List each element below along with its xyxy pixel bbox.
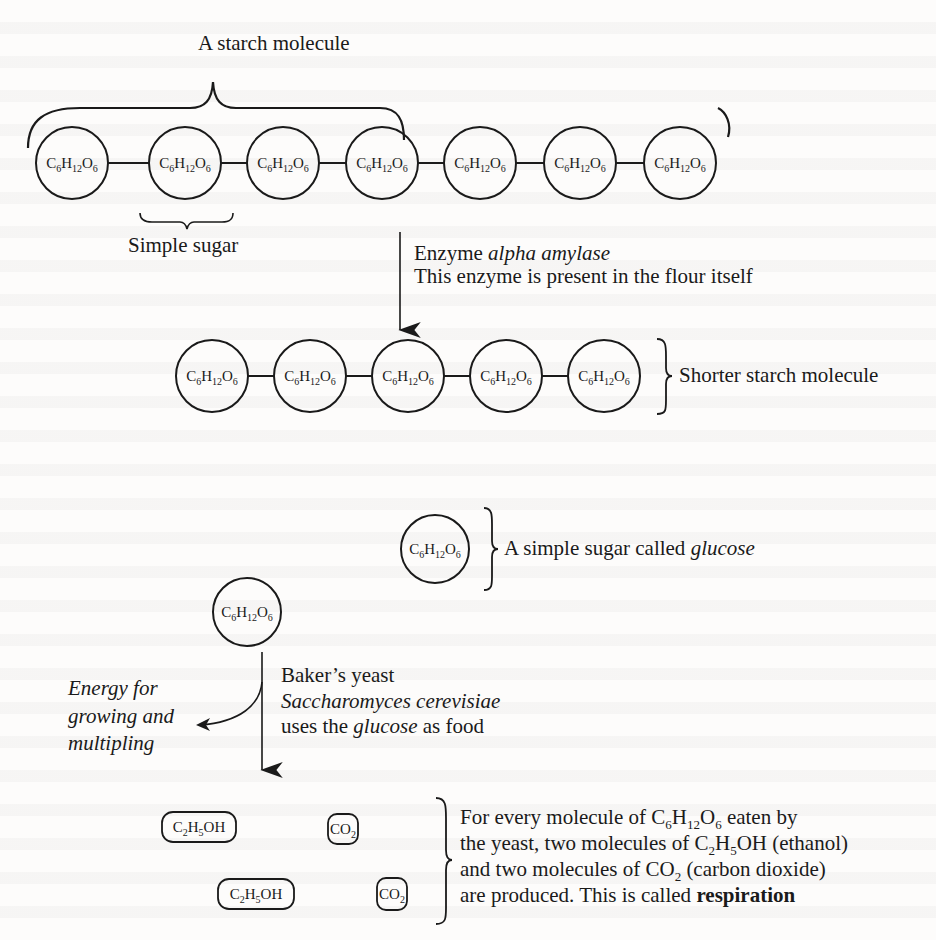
products-desc-4-prefix: are produced. This is called bbox=[460, 883, 696, 907]
energy-line3: multipling bbox=[68, 730, 154, 757]
shorter-chain-label: Shorter starch molecule bbox=[679, 362, 878, 389]
yeast-species: Saccharomyces cerevisiae bbox=[281, 689, 500, 713]
yeast-line1: Baker’s yeast bbox=[281, 662, 394, 689]
glucose-prefix: A simple sugar called bbox=[504, 536, 691, 560]
starch-brace-end bbox=[718, 108, 729, 137]
yeast-line3: uses the glucose as food bbox=[281, 713, 484, 740]
svg-text:C2H5OH: C2H5OH bbox=[230, 886, 283, 905]
shorter-chain-brace bbox=[657, 339, 672, 414]
energy-text-3: multipling bbox=[68, 731, 154, 755]
energy-line2: growing and bbox=[68, 703, 174, 730]
enzyme-name: alpha amylase bbox=[488, 241, 610, 265]
yeast-line3-italic: glucose bbox=[353, 714, 417, 738]
respiration-term: respiration bbox=[696, 883, 795, 907]
yeast-line2: Saccharomyces cerevisiae bbox=[281, 688, 500, 715]
energy-text-1: Energy for bbox=[68, 676, 158, 700]
svg-text:CO2: CO2 bbox=[379, 886, 405, 905]
starch-chain-labels bbox=[46, 155, 706, 174]
diagram-title: A starch molecule bbox=[198, 30, 350, 57]
enzyme-prefix: Enzyme bbox=[414, 241, 488, 265]
simple-sugar-label: Simple sugar bbox=[128, 232, 238, 259]
glucose-label: A simple sugar called glucose bbox=[504, 535, 755, 562]
glucose-italic: glucose bbox=[691, 536, 755, 560]
starch-fermentation-diagram: C6H12O6 bbox=[0, 0, 936, 940]
yeast-line3-suffix: as food bbox=[417, 714, 484, 738]
products-brace bbox=[436, 798, 452, 924]
svg-text:CO2: CO2 bbox=[330, 821, 356, 840]
yeast-line3-prefix: uses the bbox=[281, 714, 353, 738]
svg-text:C2H5OH: C2H5OH bbox=[173, 819, 226, 838]
simple-sugar-brace bbox=[140, 213, 233, 229]
products-desc-4: are produced. This is called respiration bbox=[460, 882, 795, 909]
product-labels: C2H5OH CO2 C2H5OH CO2 bbox=[173, 819, 405, 905]
starch-brace bbox=[28, 82, 404, 148]
energy-line1: Energy for bbox=[68, 675, 158, 702]
energy-text-2: growing and bbox=[68, 704, 174, 728]
shorter-chain-labels bbox=[186, 368, 630, 387]
glucose-brace bbox=[484, 508, 498, 590]
enzyme-note: This enzyme is present in the flour itse… bbox=[414, 263, 753, 290]
